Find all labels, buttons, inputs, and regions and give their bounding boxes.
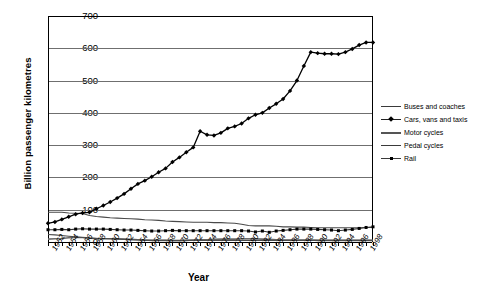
legend-swatch-icon [381,142,401,150]
legend-item[interactable]: Buses and coaches [381,100,477,113]
data-point-marker [46,221,50,225]
data-point-marker [102,228,105,231]
legend-label: Rail [404,155,416,162]
data-point-marker [337,229,340,232]
data-point-marker [192,229,195,232]
data-point-marker [87,210,91,214]
legend-swatch-icon [381,129,401,137]
data-point-marker [322,52,326,56]
data-point-marker [198,129,202,133]
data-point-marker [185,229,188,232]
data-point-marker [219,229,222,232]
data-point-marker [60,217,64,221]
data-point-marker [205,133,209,137]
legend-label: Pedal cycles [404,142,443,149]
data-point-marker [164,229,167,232]
data-point-marker [123,229,126,232]
data-point-marker [206,229,209,232]
data-point-marker [282,229,285,232]
data-point-marker [336,52,340,56]
chart-legend: Buses and coachesCars, vans and taxisMot… [381,100,477,165]
data-point-marker [302,64,306,68]
data-point-marker [275,230,278,233]
data-point-marker [212,133,216,137]
data-point-marker [199,229,202,232]
data-point-marker [309,228,312,231]
data-point-marker [178,229,181,232]
legend-label: Buses and coaches [404,103,465,110]
legend-item[interactable]: Pedal cycles [381,139,477,152]
series-line [48,212,373,227]
data-point-marker [143,229,146,232]
data-point-marker [109,228,112,231]
x-axis-title-text: Year [188,272,209,283]
data-point-marker [53,228,56,231]
data-point-marker [289,228,292,231]
data-point-marker [60,228,63,231]
data-point-marker [67,215,71,219]
data-point-marker [364,40,368,44]
data-point-marker [344,229,347,232]
data-point-marker [129,229,132,232]
data-point-marker [67,228,70,231]
data-point-marker [365,226,368,229]
data-point-marker [74,228,77,231]
data-point-marker [81,227,84,230]
data-point-marker [136,229,139,232]
data-point-marker [116,228,119,231]
data-point-marker [233,124,237,128]
legend-swatch-icon [381,103,401,111]
legend-label: Cars, vans and taxis [404,116,467,123]
chart-figure: Billion passenger kilometres 01002003004… [0,0,477,294]
data-point-marker [330,229,333,232]
data-point-marker [329,52,333,56]
legend-item[interactable]: Rail [381,152,477,165]
legend-label: Motor cycles [404,129,443,136]
data-point-marker [247,230,250,233]
data-point-marker [53,220,57,224]
data-point-marker [94,207,98,211]
data-point-marker [253,113,257,117]
data-point-marker [316,228,319,231]
data-point-marker [309,50,313,54]
data-point-marker [295,228,298,231]
data-point-marker [343,50,347,54]
data-point-marker [240,229,243,232]
data-point-marker [95,228,98,231]
data-point-marker [226,229,229,232]
series-line [48,42,373,223]
data-point-marker [101,203,105,207]
data-point-marker [372,225,375,228]
data-point-marker [150,230,153,233]
legend-swatch-icon [381,116,401,124]
data-point-marker [358,227,361,230]
legend-item[interactable]: Motor cycles [381,126,477,139]
data-point-marker [371,40,375,44]
data-point-marker [315,51,319,55]
legend-item[interactable]: Cars, vans and taxis [381,113,477,126]
legend-swatch-icon [381,155,401,163]
data-point-marker [212,229,215,232]
data-point-marker [233,229,236,232]
data-point-marker [261,230,264,233]
data-point-marker [302,228,305,231]
data-point-marker [351,228,354,231]
data-point-marker [171,229,174,232]
series-layer [48,16,373,242]
x-axis-title: Year [0,272,477,283]
y-axis-title: Billion passenger kilometres [22,9,33,239]
data-point-marker [47,228,50,231]
data-point-marker [88,228,91,231]
data-point-marker [157,230,160,233]
data-point-marker [323,228,326,231]
